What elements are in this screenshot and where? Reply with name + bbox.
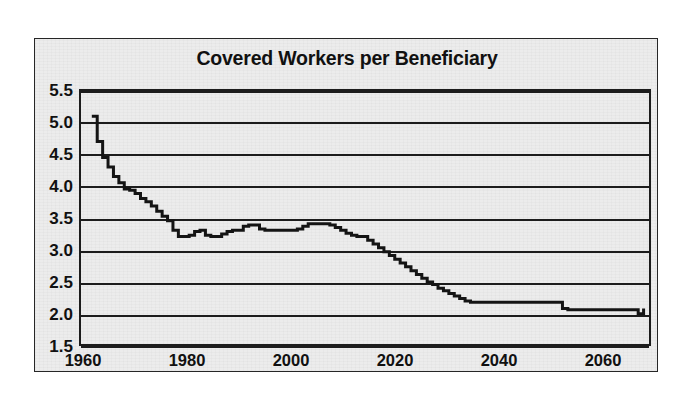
y-tick-label-3-5: 3.5 bbox=[33, 209, 73, 229]
plot-area bbox=[79, 89, 651, 346]
y-tick-label-2-5: 2.5 bbox=[33, 273, 73, 293]
y-tick-label-5-5: 5.5 bbox=[33, 81, 73, 101]
figure-frame: Covered Workers per Beneficiary 5.5 5.0 … bbox=[34, 38, 658, 372]
y-tick-label-5-0: 5.0 bbox=[33, 113, 73, 133]
x-tick-label-2040: 2040 bbox=[469, 351, 529, 370]
x-tick-label-1960: 1960 bbox=[53, 351, 113, 370]
x-tick-label-1980: 1980 bbox=[157, 351, 217, 370]
y-tick-label-3-0: 3.0 bbox=[33, 241, 73, 261]
x-tick-label-2060: 2060 bbox=[573, 351, 633, 370]
x-tick-label-2020: 2020 bbox=[365, 351, 425, 370]
y-tick-label-4-0: 4.0 bbox=[33, 177, 73, 197]
data-series-line bbox=[81, 91, 649, 344]
page-title: Covered Workers per Beneficiary bbox=[35, 47, 659, 70]
y-tick-label-4-5: 4.5 bbox=[33, 145, 73, 165]
x-tick-label-2000: 2000 bbox=[261, 351, 321, 370]
gridline-1-5 bbox=[81, 346, 649, 348]
chart-screenshot: Covered Workers per Beneficiary 5.5 5.0 … bbox=[0, 0, 697, 409]
y-tick-label-2-0: 2.0 bbox=[33, 305, 73, 325]
